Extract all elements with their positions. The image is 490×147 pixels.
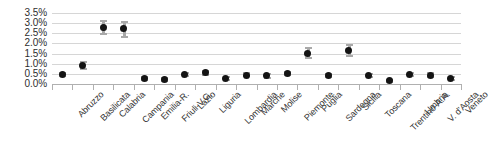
x-axis-category-labels: AbruzzoBasilicataCalabriaCampaniaEmilia-… <box>0 90 467 147</box>
error-bar-cap-lower <box>121 36 128 38</box>
data-point-marker <box>325 72 332 79</box>
error-bar-cap-lower <box>346 55 353 57</box>
x-axis-label-toscana: Toscana <box>384 90 414 120</box>
data-point-marker <box>427 72 434 79</box>
data-point-marker <box>100 24 107 31</box>
data-point-marker <box>243 72 250 79</box>
data-series <box>52 13 461 84</box>
data-point-marker <box>59 71 66 78</box>
data-point-marker <box>447 75 454 82</box>
x-axis-label-lazio: Lazio <box>196 90 217 111</box>
error-bar-cap-upper <box>121 21 128 23</box>
data-point-marker <box>141 75 148 82</box>
data-point-marker <box>284 70 291 77</box>
error-bar-cap-upper <box>305 47 312 49</box>
x-axis-label-liguria: Liguria <box>218 90 243 115</box>
error-bar-cap-lower <box>305 57 312 59</box>
error-bar-cap-upper <box>346 44 353 46</box>
data-point-marker <box>304 50 311 57</box>
data-point-marker <box>365 72 372 79</box>
y-axis-tick-label: 2.0% <box>25 38 47 48</box>
data-point-marker <box>406 71 413 78</box>
data-point-marker <box>345 47 352 54</box>
plot-area <box>52 13 461 84</box>
error-bar-cap-lower <box>100 33 107 35</box>
error-bar-cap-upper <box>100 20 107 22</box>
data-point-marker <box>222 75 229 82</box>
data-point-marker <box>161 76 168 83</box>
y-axis-tick-label: 0.0% <box>25 79 47 89</box>
x-axis-label-umbria: Umbria <box>423 90 449 116</box>
data-point-marker <box>181 71 188 78</box>
x-axis-label-sicilia: Sicilia <box>360 90 382 112</box>
y-axis-tick-labels: 3.5%3.0%2.5%2.0%1.5%1.0%0.5%0.0% <box>0 0 50 97</box>
data-point-marker <box>120 25 127 32</box>
